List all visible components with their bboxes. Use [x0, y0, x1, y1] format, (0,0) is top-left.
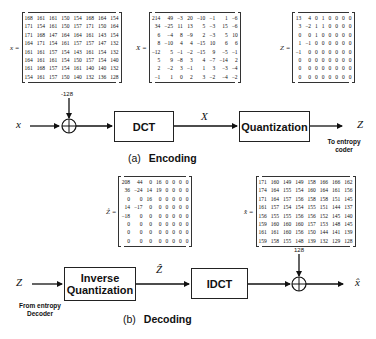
matrix-cell: 150 — [61, 22, 69, 30]
matrix-cell: 8 — [177, 31, 183, 39]
entropy-coder-note: To entropy coder — [318, 138, 370, 154]
matrix-X: X = 21449−320−10−11−634−2511135−315−66−4… — [136, 12, 241, 83]
matrix-cell: 150 — [61, 73, 69, 81]
matrix-cell: 157 — [271, 203, 279, 211]
matrix-cell: 0 — [335, 48, 338, 56]
matrix-cell: 0 — [329, 39, 332, 47]
matrix-cell: 0 — [305, 64, 311, 72]
matrix-cell: 145 — [332, 212, 340, 220]
matrix-cell: 161 — [25, 48, 33, 56]
matrix-cell: 150 — [308, 228, 316, 236]
matrix-cell: 166 — [332, 178, 340, 186]
matrix-cell: 162 — [344, 178, 352, 186]
matrix-cell: 161 — [332, 186, 340, 194]
matrix-cell: 148 — [332, 220, 340, 228]
matrix-cell: 151 — [320, 203, 328, 211]
matrix-cell: 128 — [110, 73, 118, 81]
encoding-offset-label: -128 — [61, 91, 73, 97]
matrix-cell: −1 — [295, 48, 301, 56]
inverse-quantization-block: Inverse Quantization — [64, 267, 136, 301]
matrix-cell: 0 — [335, 64, 338, 72]
matrix-cell: 0 — [329, 48, 332, 56]
matrix-cell: 0 — [156, 195, 162, 203]
matrix-cell: −3 — [177, 14, 183, 22]
matrix-cell: 158 — [320, 195, 328, 203]
entropy-decoder-note: From entropy Decoder — [14, 302, 66, 318]
matrix-cell: 157 — [49, 64, 57, 72]
matrix-cell: 156 — [295, 228, 303, 236]
matrix-cell: 4 — [305, 14, 311, 22]
matrix-cell: 0 — [342, 14, 345, 22]
matrix-cell: 171 — [25, 22, 33, 30]
matrix-cell: 144 — [320, 228, 328, 236]
matrix-cell: 0 — [349, 73, 352, 81]
matrix-cell: 144 — [332, 203, 340, 211]
matrix-cell: 0 — [179, 178, 182, 186]
matrix-cell: 0 — [186, 237, 189, 245]
matrix-cell: −18 — [121, 212, 130, 220]
matrix-cell: 0 — [315, 14, 318, 22]
matrix-cell: 171 — [259, 195, 267, 203]
matrix-cell: 14 — [147, 186, 153, 194]
matrix-cell: 0 — [147, 212, 153, 220]
matrix-cell: 0 — [179, 186, 182, 194]
matrix-cell: 6 — [219, 39, 228, 47]
dct-block: DCT — [114, 111, 174, 142]
decoding-output-symbol: x̂ — [355, 276, 360, 288]
matrix-cell: −2 — [187, 48, 193, 56]
decoding-caption-text: Decoding — [144, 313, 192, 325]
matrix-cell: 0 — [172, 237, 175, 245]
matrix-cell: 158 — [308, 178, 316, 186]
matrix-cell: −24 — [134, 186, 143, 194]
matrix-cell: 0 — [172, 212, 175, 220]
matrix-cell: −1 — [177, 48, 183, 56]
matrix-cell: 0 — [329, 73, 332, 81]
matrix-cell: 0 — [295, 64, 301, 72]
matrix-cell: 171 — [259, 178, 267, 186]
matrix-cell: 0 — [166, 220, 169, 228]
matrix-cell: 154 — [295, 186, 303, 194]
matrix-cell: 0 — [179, 228, 182, 236]
matrix-cell: −5 — [219, 48, 228, 56]
matrix-cell: 154 — [61, 64, 69, 72]
matrix-cell: −2 — [164, 64, 173, 72]
matrix-cell: 0 — [134, 195, 143, 203]
matrix-cell: 132 — [110, 39, 118, 47]
matrix-cell: 1 — [322, 14, 325, 22]
matrix-X-grid: 21449−320−10−11−634−2511135−315−66−48−92… — [152, 14, 238, 81]
matrix-cell: 8 — [152, 39, 161, 47]
matrix-cell: 1 — [322, 22, 325, 30]
matrix-cell: 0 — [179, 220, 182, 228]
matrix-cell: 0 — [134, 212, 143, 220]
matrix-cell: −4 — [232, 64, 238, 72]
matrix-cell: −14 — [219, 56, 228, 64]
encoding-input-symbol: x — [16, 118, 21, 130]
matrix-cell: 0 — [305, 56, 311, 64]
matrix-cell: 161 — [259, 228, 267, 236]
matrix-cell: 164 — [271, 195, 279, 203]
matrix-cell: 4 — [187, 39, 193, 47]
matrix-cell: 0 — [121, 228, 130, 236]
matrix-cell: 157 — [86, 56, 94, 64]
matrix-cell: −2 — [232, 73, 238, 81]
matrix-cell: 11 — [177, 22, 183, 30]
matrix-cell: −4 — [219, 73, 228, 81]
matrix-cell: 0 — [335, 14, 338, 22]
matrix-cell: 164 — [271, 186, 279, 194]
matrix-cell: −15 — [197, 39, 206, 47]
matrix-cell: 152 — [320, 212, 328, 220]
matrix-cell: 155 — [283, 186, 291, 194]
matrix-cell: 0 — [166, 212, 169, 220]
matrix-cell: 154 — [283, 203, 291, 211]
matrix-cell: 5 — [197, 22, 206, 30]
matrix-cell: 1 — [164, 73, 173, 81]
matrix-cell: 154 — [49, 39, 57, 47]
matrix-Zhat-grid: 20844016000036−241419000000160000014−170… — [121, 178, 188, 245]
matrix-cell: 44 — [134, 178, 143, 186]
matrix-cell: 161 — [271, 228, 279, 236]
matrix-cell: 160 — [308, 186, 316, 194]
matrix-cell: 9 — [209, 48, 215, 56]
matrix-cell: 15 — [219, 22, 228, 30]
matrix-cell: 161 — [49, 22, 57, 30]
matrix-cell: 160 — [271, 220, 279, 228]
